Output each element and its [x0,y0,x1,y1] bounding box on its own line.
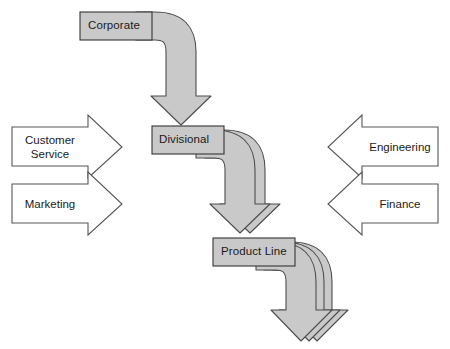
node-label-divisional: Divisional [159,133,209,145]
node-label-corporate: Corporate [88,19,140,31]
side-label-customer-service: Customer Service [14,133,86,161]
side-label-finance: Finance [364,197,436,211]
side-label-engineering: Engineering [364,140,436,154]
node-label-product-line: Product Line [221,245,287,257]
diagram-svg [0,0,450,349]
side-label-marketing: Marketing [14,197,86,211]
diagram-canvas: Corporate Divisional Product Line Custom… [0,0,450,349]
